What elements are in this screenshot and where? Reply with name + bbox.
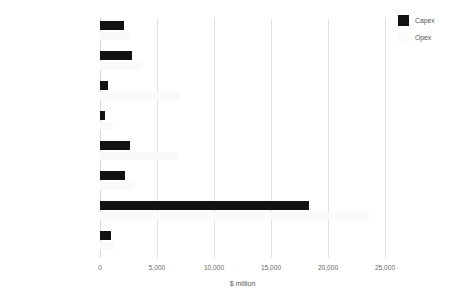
legend-label-opex: Opex xyxy=(415,34,431,41)
gridline-25000 xyxy=(385,18,386,258)
legend-label-capex: Capex xyxy=(415,17,435,24)
bar-capex[interactable] xyxy=(100,231,111,240)
bar-opex[interactable] xyxy=(100,62,141,71)
x-tick-label: 20,000 xyxy=(318,264,338,271)
bar-capex[interactable] xyxy=(100,141,130,150)
bar-row xyxy=(100,198,385,228)
bar-opex[interactable] xyxy=(100,182,133,191)
legend-item-opex[interactable]: Opex xyxy=(398,29,454,46)
x-tick-label: 0 xyxy=(98,264,102,271)
bar-opex[interactable] xyxy=(100,152,179,161)
bar-capex[interactable] xyxy=(100,171,125,180)
opex-swatch-icon xyxy=(398,32,409,43)
bar-row xyxy=(100,138,385,168)
x-tick-label: 5,000 xyxy=(149,264,166,271)
x-tick-label: 25,000 xyxy=(375,264,395,271)
bar-chart: 05,00010,00015,00020,00025,000 $ million… xyxy=(0,0,454,294)
legend-item-capex[interactable]: Capex xyxy=(398,12,454,29)
bar-capex[interactable] xyxy=(100,21,124,30)
bar-row xyxy=(100,48,385,78)
x-axis-title: $ million xyxy=(100,280,385,287)
bar-row xyxy=(100,168,385,198)
bar-capex[interactable] xyxy=(100,201,309,210)
bar-capex[interactable] xyxy=(100,81,108,90)
bar-opex[interactable] xyxy=(100,242,114,251)
bar-capex[interactable] xyxy=(100,111,105,120)
bar-row xyxy=(100,108,385,138)
x-tick-label: 10,000 xyxy=(204,264,224,271)
bar-row xyxy=(100,228,385,258)
x-tick-label: 15,000 xyxy=(261,264,281,271)
bar-opex[interactable] xyxy=(100,122,113,131)
bar-row xyxy=(100,78,385,108)
bar-opex[interactable] xyxy=(100,92,180,101)
bar-row xyxy=(100,18,385,48)
bar-opex[interactable] xyxy=(100,32,130,41)
bar-opex[interactable] xyxy=(100,212,370,221)
bar-capex[interactable] xyxy=(100,51,132,60)
capex-swatch-icon xyxy=(398,15,409,26)
legend: Capex Opex xyxy=(398,12,454,46)
plot-area: 05,00010,00015,00020,00025,000 $ million xyxy=(100,18,385,258)
